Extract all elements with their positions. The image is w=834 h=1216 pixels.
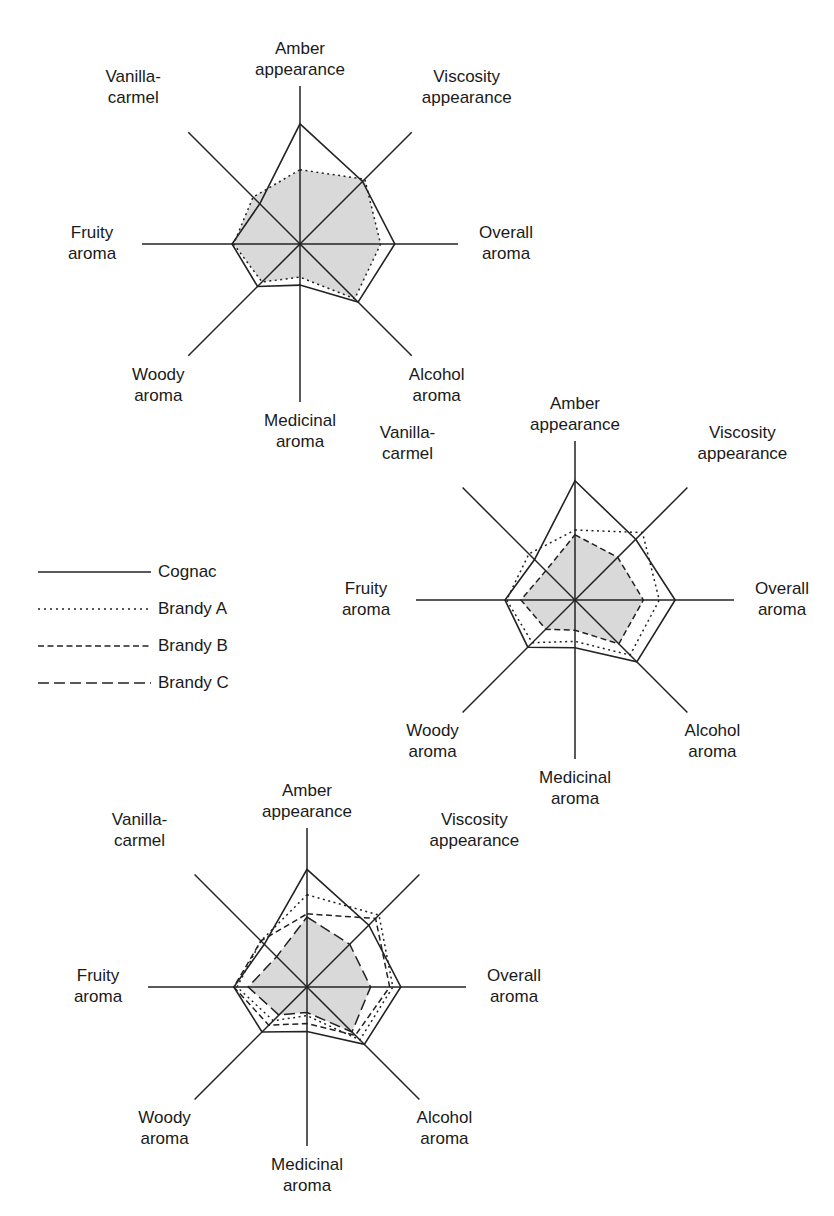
axis-line-woody-aroma xyxy=(188,244,300,356)
axis-label-line: Viscosity xyxy=(430,809,520,830)
axis-label-line: aroma xyxy=(487,986,541,1007)
legend-label: Brandy A xyxy=(158,599,227,619)
axis-label-line: Overall xyxy=(487,965,541,986)
long-dashed-line-swatch-icon xyxy=(38,678,151,688)
axis-label-line: appearance xyxy=(530,414,620,435)
axis-line-woody-aroma xyxy=(463,600,575,712)
axis-label-amber-appearance: Amberappearance xyxy=(530,393,620,435)
axis-label-amber-appearance: Amberappearance xyxy=(255,38,345,80)
axis-label-line: Overall xyxy=(755,578,809,599)
axis-label-line: aroma xyxy=(342,599,390,620)
axis-label-overall-aroma: Overallaroma xyxy=(487,965,541,1007)
axis-label-line: aroma xyxy=(68,243,116,264)
axis-label-medicinal-aroma: Medicinalaroma xyxy=(539,767,611,809)
axis-label-line: Woody xyxy=(406,720,459,741)
axis-label-overall-aroma: Overallaroma xyxy=(479,222,533,264)
axis-label-line: aroma xyxy=(755,599,809,620)
legend-label: Brandy B xyxy=(158,636,228,656)
legend-item-brandy-a: Brandy A xyxy=(38,590,278,627)
legend-item-cognac: Cognac xyxy=(38,553,278,590)
axis-label-line: appearance xyxy=(262,801,352,822)
radar-chart-1 xyxy=(142,86,458,402)
axis-label-viscosity-appearance: Viscosityappearance xyxy=(422,66,512,108)
axis-label-overall-aroma: Overallaroma xyxy=(755,578,809,620)
axis-label-viscosity-appearance: Viscosityappearance xyxy=(430,809,520,851)
axis-label-line: aroma xyxy=(409,385,465,406)
axis-label-line: carmel xyxy=(380,443,435,464)
axis-label-line: appearance xyxy=(698,443,788,464)
axis-label-line: Amber xyxy=(255,38,345,59)
axis-label-line: Alcohol xyxy=(417,1107,473,1128)
axis-label-line: appearance xyxy=(422,87,512,108)
axis-label-line: aroma xyxy=(74,986,122,1007)
radar-figure: AmberappearanceViscosityappearanceOveral… xyxy=(0,0,834,1216)
axis-label-alcohol-aroma: Alcoholaroma xyxy=(417,1107,473,1149)
axis-label-medicinal-aroma: Medicinalaroma xyxy=(271,1154,343,1196)
axis-label-line: Fruity xyxy=(342,578,390,599)
axis-label-line: Viscosity xyxy=(698,422,788,443)
axis-label-line: aroma xyxy=(138,1128,191,1149)
axis-label-line: Medicinal xyxy=(271,1154,343,1175)
legend-label: Brandy C xyxy=(158,673,229,693)
axis-label-line: appearance xyxy=(430,830,520,851)
legend-item-brandy-c: Brandy C xyxy=(38,664,278,701)
shaded-area-brandy-a xyxy=(234,170,381,299)
axis-label-line: Woody xyxy=(138,1107,191,1128)
axis-label-fruity-aroma: Fruityaroma xyxy=(74,965,122,1007)
axis-label-line: Fruity xyxy=(68,222,116,243)
axis-label-line: aroma xyxy=(406,741,459,762)
axis-line-vanilla-carmel xyxy=(463,488,575,600)
axis-label-line: Alcohol xyxy=(685,720,741,741)
axis-line-woody-aroma xyxy=(195,987,307,1099)
solid-line-swatch-icon xyxy=(38,567,151,577)
axis-label-woody-aroma: Woodyaroma xyxy=(132,364,185,406)
axis-label-vanilla-carmel: Vanilla-carmel xyxy=(112,809,167,851)
axis-label-line: aroma xyxy=(417,1128,473,1149)
axis-label-amber-appearance: Amberappearance xyxy=(262,780,352,822)
axis-label-vanilla-carmel: Vanilla-carmel xyxy=(106,66,161,108)
axis-label-alcohol-aroma: Alcoholaroma xyxy=(685,720,741,762)
axis-label-alcohol-aroma: Alcoholaroma xyxy=(409,364,465,406)
axis-label-line: aroma xyxy=(271,1175,343,1196)
axis-label-line: carmel xyxy=(106,87,161,108)
axis-label-medicinal-aroma: Medicinalaroma xyxy=(264,410,336,452)
legend: Cognac Brandy A Brandy B Brandy C xyxy=(38,553,278,701)
axis-label-line: Overall xyxy=(479,222,533,243)
axis-label-line: Alcohol xyxy=(409,364,465,385)
axis-label-line: Vanilla- xyxy=(380,422,435,443)
axis-label-woody-aroma: Woodyaroma xyxy=(138,1107,191,1149)
legend-label: Cognac xyxy=(158,562,217,582)
axis-label-line: Vanilla- xyxy=(112,809,167,830)
legend-item-brandy-b: Brandy B xyxy=(38,627,278,664)
dotted-line-swatch-icon xyxy=(38,604,151,614)
radar-chart-2 xyxy=(416,441,734,759)
axis-label-line: aroma xyxy=(264,431,336,452)
axis-label-woody-aroma: Woodyaroma xyxy=(406,720,459,762)
axis-label-line: Viscosity xyxy=(422,66,512,87)
axis-label-line: Amber xyxy=(262,780,352,801)
axis-line-vanilla-carmel xyxy=(195,875,307,987)
radar-chart-3 xyxy=(148,828,466,1146)
short-dashed-line-swatch-icon xyxy=(38,641,151,651)
axis-label-fruity-aroma: Fruityaroma xyxy=(68,222,116,264)
axis-label-line: Medicinal xyxy=(539,767,611,788)
axis-label-line: appearance xyxy=(255,59,345,80)
axis-label-line: Fruity xyxy=(74,965,122,986)
axis-label-line: aroma xyxy=(479,243,533,264)
axis-label-line: carmel xyxy=(112,830,167,851)
axis-label-vanilla-carmel: Vanilla-carmel xyxy=(380,422,435,464)
axis-label-line: aroma xyxy=(132,385,185,406)
axis-label-line: aroma xyxy=(539,788,611,809)
axis-label-line: Woody xyxy=(132,364,185,385)
axis-label-line: Medicinal xyxy=(264,410,336,431)
axis-label-viscosity-appearance: Viscosityappearance xyxy=(698,422,788,464)
axis-label-line: Amber xyxy=(530,393,620,414)
axis-label-line: aroma xyxy=(685,741,741,762)
axis-label-line: Vanilla- xyxy=(106,66,161,87)
axis-label-fruity-aroma: Fruityaroma xyxy=(342,578,390,620)
